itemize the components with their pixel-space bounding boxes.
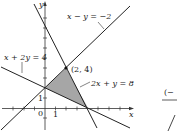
y-axis-arrow-icon: [43, 1, 46, 6]
partial-neighbor-line: [168, 115, 175, 131]
linear-inequality-graph: y x 0 1 1 x − y = −2 x + 2y = 4 2x + y =…: [0, 0, 177, 132]
feasible-region: [45, 68, 88, 108]
x-axis-label: x: [129, 110, 134, 119]
leader-2x-plus-y: [80, 82, 90, 87]
partial-neighbor-label: (−: [164, 88, 174, 97]
y-tick-label: 1: [38, 94, 43, 103]
vertex-label: (2, 4): [71, 65, 93, 74]
y-axis-label: y: [38, 0, 44, 9]
origin-label: 0: [38, 109, 43, 118]
x-tick-label: 1: [53, 110, 58, 119]
label-x-minus-y-eq-neg2: x − y = −2: [67, 12, 111, 21]
leader-x-minus-y: [98, 22, 104, 29]
label-x-plus-2y-eq-4: x + 2y = 4: [4, 53, 47, 62]
vertex-point: [64, 66, 67, 69]
label-2x-plus-y-eq-8: 2x + y = 8: [90, 79, 134, 88]
